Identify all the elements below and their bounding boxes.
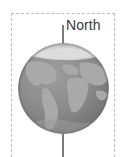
earth-globe-icon xyxy=(18,43,109,134)
earth-globe xyxy=(18,43,109,134)
earth-axis-diagram: North xyxy=(0,0,126,157)
north-label: North xyxy=(66,17,101,33)
